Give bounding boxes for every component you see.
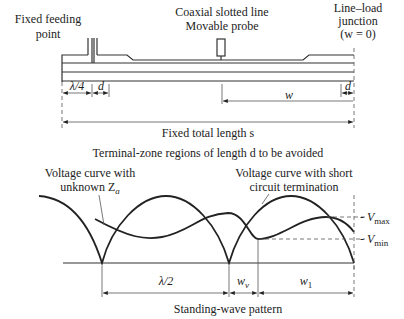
svg-text:λ/4: λ/4 (69, 79, 85, 93)
svg-text:Coaxial slotted line: Coaxial slotted line (175, 5, 268, 19)
svg-text:point: point (36, 27, 61, 41)
slotted-line-diagram: Fixed feeding point Coaxial slotted line… (0, 0, 404, 319)
vmax-label: - Vmax (360, 210, 390, 226)
svg-text:d: d (98, 79, 105, 93)
svg-text:λ/2: λ/2 (158, 274, 174, 288)
feeding-point-label: Fixed feeding point (15, 12, 81, 41)
terminal-zone-note: Terminal-zone regions of length d to be … (93, 146, 324, 160)
probe-label: Coaxial slotted line Movable probe (175, 5, 268, 33)
svg-text:Fixed total length s: Fixed total length s (162, 126, 255, 140)
svg-text:- Vmax: - Vmax (360, 210, 390, 226)
coaxial-line (62, 55, 354, 82)
vmin-label: - Vmin (360, 232, 389, 248)
movable-probe (217, 39, 225, 60)
dimension-w: w (223, 88, 353, 102)
svg-text:(w = 0): (w = 0) (340, 27, 375, 41)
dimension-half-wave: λ/2 (103, 274, 228, 293)
unknown-curve-label: Voltage curve with unknown Za (45, 166, 135, 225)
junction-label: Line–load junction (w = 0) (334, 1, 383, 41)
svg-text:wv: wv (237, 274, 249, 290)
figure-caption: Standing-wave pattern (174, 302, 282, 316)
dimension-w1: w1 (259, 274, 353, 293)
feeding-point-tubes (88, 38, 97, 63)
svg-text:- Vmin: - Vmin (360, 232, 389, 248)
svg-text:w: w (285, 88, 293, 102)
svg-text:Voltage curve with short: Voltage curve with short (235, 166, 353, 180)
svg-text:Voltage curve with: Voltage curve with (45, 166, 135, 180)
short-curve-label: Voltage curve with short circuit termina… (235, 166, 353, 204)
svg-text:junction: junction (337, 14, 377, 28)
svg-text:circuit termination: circuit termination (250, 180, 339, 194)
svg-text:w1: w1 (300, 274, 313, 290)
short-circuit-voltage-curve (39, 196, 354, 263)
svg-text:Fixed feeding: Fixed feeding (15, 12, 81, 26)
svg-text:unknown Za: unknown Za (60, 180, 120, 196)
dimension-total-length: Fixed total length s (63, 122, 353, 140)
svg-text:d: d (345, 79, 352, 93)
svg-text:Line–load: Line–load (334, 1, 383, 15)
dimension-wv: wv (230, 274, 257, 293)
svg-text:Movable probe: Movable probe (186, 19, 259, 33)
unknown-load-voltage-curve (95, 213, 354, 239)
